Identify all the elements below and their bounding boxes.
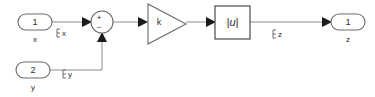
inport-block-1[interactable]: 1 x <box>18 14 52 44</box>
signal-label-z-text: z <box>278 30 282 39</box>
block-diagram-canvas: 1 x x 2 y y + – k <box>0 0 375 97</box>
diagram-svg: 1 x x 2 y y + – k <box>0 0 375 97</box>
inport-block-2[interactable]: 2 y <box>16 62 50 92</box>
gain-block-shape[interactable] <box>148 4 186 44</box>
sum-sign-minus: – <box>97 22 102 31</box>
wire-layer <box>50 22 328 70</box>
signal-label-y-text: y <box>68 70 72 79</box>
inport-1-number: 1 <box>32 17 37 27</box>
arrowhead-layer <box>82 17 332 42</box>
gain-block[interactable]: k <box>148 4 186 44</box>
inport-1-name: x <box>33 35 37 44</box>
sum-block[interactable]: + – <box>91 11 113 33</box>
signal-tag-icon-x <box>57 29 60 37</box>
signal-label-x-text: x <box>62 29 66 38</box>
sum-block-shape[interactable] <box>91 11 113 33</box>
signal-label-x[interactable]: x <box>57 29 66 38</box>
sum-sign-plus: + <box>97 13 102 22</box>
abs-block[interactable]: |u| <box>215 6 250 39</box>
arrowhead-gain-input <box>138 17 148 27</box>
signal-tag-icon-z <box>273 30 276 38</box>
wire-y-to-sum[interactable] <box>50 37 102 70</box>
outport-1-name: z <box>346 35 350 44</box>
gain-block-label: k <box>157 17 162 27</box>
outport-1-number: 1 <box>345 17 350 27</box>
abs-block-label: |u| <box>227 16 239 28</box>
inport-2-name: y <box>31 83 35 92</box>
inport-2-number: 2 <box>30 65 35 75</box>
signal-label-y[interactable]: y <box>63 70 72 79</box>
outport-block-1[interactable]: 1 z <box>331 14 365 44</box>
signal-label-z[interactable]: z <box>273 30 282 39</box>
signal-tag-icon-y <box>63 70 66 78</box>
